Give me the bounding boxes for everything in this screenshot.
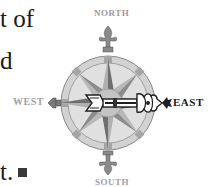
- north-fleur-ornament: [99, 26, 117, 52]
- compass-label-west: WEST: [13, 96, 44, 107]
- compass-label-east: EAST: [173, 96, 204, 108]
- south-fleur-ornament: [99, 151, 117, 175]
- west-ornament: [48, 98, 61, 108]
- compass-label-north: NORTH: [94, 8, 129, 18]
- compass-label-south: SOUTH: [95, 177, 129, 187]
- compass-rose-illustration: [0, 0, 214, 187]
